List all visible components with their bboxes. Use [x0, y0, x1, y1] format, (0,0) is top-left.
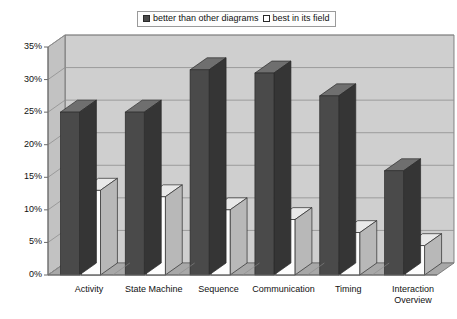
bar-3-series-0-side [274, 61, 291, 275]
bar-2-series-0 [190, 58, 226, 275]
x-axis-tick-label: State Machine [116, 284, 191, 295]
y-axis-tick-label: 20% [12, 139, 42, 149]
x-axis-tick-label: Sequence [181, 284, 256, 295]
bar-1-series-0-front [125, 112, 144, 275]
y-axis-tick-label: 25% [12, 106, 42, 116]
bar-5-series-0-front [385, 171, 404, 275]
bar-3-series-1-side [295, 208, 312, 275]
bar-3-series-0-front [255, 73, 274, 275]
bar-0-series-0-front [60, 112, 79, 275]
bar-1-series-1-side [165, 185, 182, 275]
y-axis-tick-label: 10% [12, 204, 42, 214]
y-axis-tick-label: 0% [12, 269, 42, 279]
x-axis-tick-label: Timing [311, 284, 386, 295]
chart-canvas [0, 0, 457, 319]
x-axis-tick-label: Activity [52, 284, 127, 295]
bar-0-series-0 [60, 100, 96, 275]
y-axis-tick-label: 35% [12, 41, 42, 51]
bar-2-series-0-front [190, 70, 209, 275]
y-axis-tick-label: 15% [12, 171, 42, 181]
x-axis-tick-label: Communication [246, 284, 321, 295]
y-axis-tick-label: 5% [12, 236, 42, 246]
bar-3-series-0 [255, 61, 291, 275]
bar-2-series-1-side [230, 198, 247, 275]
bar-2-series-0-side [209, 58, 226, 275]
bar-chart: 0%5%10%15%20%25%30%35%ActivityState Mach… [0, 0, 457, 319]
bar-1-series-0 [125, 100, 161, 275]
bar-1-series-0-side [144, 100, 161, 275]
y-axis-tick-label: 30% [12, 74, 42, 84]
bar-4-series-0-front [320, 96, 339, 275]
bar-4-series-0-side [339, 84, 356, 275]
x-axis-tick-label: Interaction Overview [376, 284, 451, 306]
bar-0-series-1-side [100, 178, 117, 275]
bar-4-series-0 [320, 84, 356, 275]
bar-0-series-0-side [79, 100, 96, 275]
bar-5-series-0 [385, 159, 421, 275]
bar-5-series-0-side [404, 159, 421, 275]
